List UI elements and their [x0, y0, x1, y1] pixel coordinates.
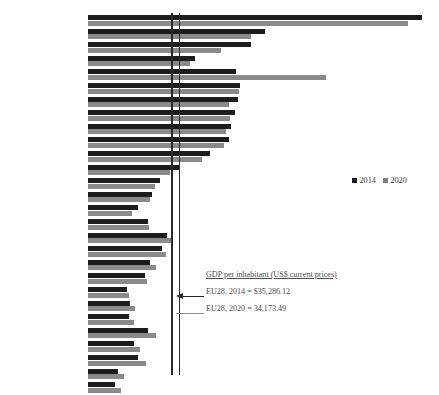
- bar-2020: [88, 89, 239, 94]
- bar-2014: [88, 151, 210, 156]
- bar-2014: [88, 137, 229, 142]
- bar-2020: [88, 252, 166, 257]
- bar-2020: [88, 361, 146, 366]
- bar-2014: [88, 314, 129, 319]
- bar-2014: [88, 382, 115, 387]
- bar-2020: [88, 102, 229, 107]
- legend-swatch-2014-icon: [352, 178, 357, 183]
- legend-entry-2014: 2014: [352, 176, 376, 185]
- bar-2014: [88, 355, 138, 360]
- bar-2014: [88, 192, 152, 197]
- bar-2020: [88, 116, 230, 121]
- bar-2020: [88, 170, 170, 175]
- bar-2014: [88, 260, 150, 265]
- bar-2020: [88, 129, 226, 134]
- bar-2014: [88, 124, 231, 129]
- bar-2014: [88, 15, 422, 20]
- bar-2020: [88, 197, 150, 202]
- bar-2020: [88, 293, 129, 298]
- bar-2014: [88, 233, 167, 238]
- bar-2020: [88, 374, 124, 379]
- legend-entry-2020: 2020: [383, 176, 407, 185]
- legend-label-2014: 2014: [360, 176, 376, 185]
- legend-label-2020: 2020: [390, 176, 406, 185]
- bar-2014: [88, 341, 134, 346]
- bar-2020: [88, 265, 156, 270]
- bar-2014: [88, 205, 138, 210]
- bar-2020: [88, 388, 121, 393]
- bar-2020: [88, 347, 140, 352]
- bar-2020: [88, 75, 326, 80]
- bar-2014: [88, 328, 148, 333]
- bar-2020: [88, 333, 156, 338]
- bar-2014: [88, 110, 235, 115]
- bar-2020: [88, 306, 135, 311]
- bar-2020: [88, 34, 251, 39]
- legend-swatch-2020-icon: [383, 178, 388, 183]
- bar-2020: [88, 157, 202, 162]
- annotation-eu28-2014: EU28, 2014 = $35,286.12: [206, 286, 431, 297]
- bar-2014: [88, 165, 179, 170]
- reference-line-eu28-2020: [179, 13, 181, 375]
- bar-2014: [88, 69, 236, 74]
- reference-line-eu28-2014: [171, 13, 173, 375]
- bar-2020: [88, 211, 132, 216]
- bar-2014: [88, 42, 251, 47]
- bar-2020: [88, 61, 190, 66]
- annotation-leader-2020-icon: [176, 313, 204, 314]
- bar-2014: [88, 83, 240, 88]
- bar-2014: [88, 178, 160, 183]
- bar-2014: [88, 29, 265, 34]
- bar-2020: [88, 320, 134, 325]
- bar-2020: [88, 21, 408, 26]
- arrow-shaft-icon: [182, 296, 204, 297]
- chart-legend: 2014 2020: [352, 176, 414, 185]
- bar-2020: [88, 184, 155, 189]
- bar-2014: [88, 219, 148, 224]
- bar-2014: [88, 246, 162, 251]
- annotation-arrow-2014-icon: [176, 293, 204, 300]
- bar-2020: [88, 238, 173, 243]
- bar-2020: [88, 143, 224, 148]
- bar-2014: [88, 369, 118, 374]
- bar-2020: [88, 48, 221, 53]
- bar-2014: [88, 287, 127, 292]
- bar-2014: [88, 273, 145, 278]
- bar-2020: [88, 279, 147, 284]
- bar-2014: [88, 301, 130, 306]
- annotation-title: GDP per inhabitant (US$ current prices): [206, 269, 431, 280]
- bar-2014: [88, 97, 238, 102]
- bar-2020: [88, 225, 149, 230]
- annotation-block: GDP per inhabitant (US$ current prices) …: [206, 269, 431, 314]
- annotation-eu28-2020: EU28, 2020 = 34,173.49: [206, 303, 431, 314]
